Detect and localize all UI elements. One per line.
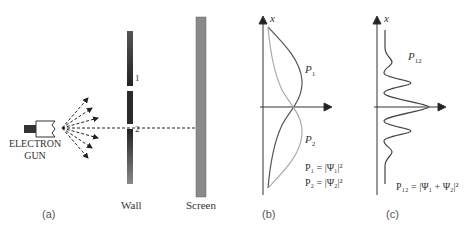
panel-b-axis-label: x bbox=[270, 12, 275, 24]
gun-label-line2: GUN bbox=[6, 150, 64, 162]
panel-c-axis-label: x bbox=[384, 12, 389, 24]
gun-label-line1: ELECTRON bbox=[6, 138, 64, 150]
screen-label: Screen bbox=[186, 199, 216, 211]
slit-1-label: 1 bbox=[135, 73, 140, 83]
p12-label: P12 bbox=[408, 50, 422, 65]
wall bbox=[127, 31, 133, 184]
caption-c: (c) bbox=[386, 208, 399, 220]
caption-a: (a) bbox=[42, 208, 55, 220]
panel-c-axes bbox=[373, 16, 446, 195]
wall-label: Wall bbox=[121, 199, 142, 211]
electron-gun-icon bbox=[24, 121, 55, 137]
p2-label: P2 bbox=[305, 133, 315, 148]
double-slit-diagram bbox=[0, 0, 475, 227]
p2-equation: P₂ = |Ψ₂|² bbox=[305, 177, 343, 188]
slit-2-label: 2 bbox=[135, 124, 140, 134]
caption-b: (b) bbox=[262, 208, 275, 220]
p1-label: P1 bbox=[305, 63, 315, 78]
p1-equation: P₁ = |Ψ₁|² bbox=[305, 162, 343, 173]
screen bbox=[196, 17, 206, 197]
p12-equation: P₁₂ = |Ψ₁ + Ψ₂|² bbox=[396, 181, 459, 192]
electron-gun-label: ELECTRON GUN bbox=[6, 138, 64, 162]
